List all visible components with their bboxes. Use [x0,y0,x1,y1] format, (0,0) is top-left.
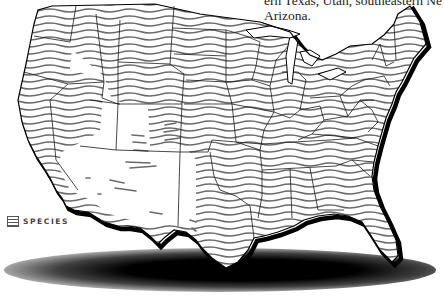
wavy-hatch-swatch-icon [7,216,19,227]
legend-label: SPECIES [23,217,69,226]
map-legend: SPECIES [7,216,69,227]
